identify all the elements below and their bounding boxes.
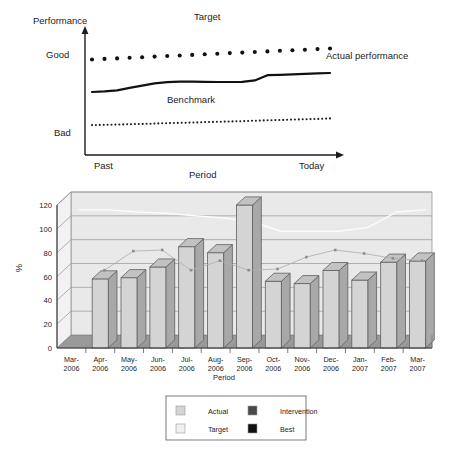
top-chart-benchmark-dot — [153, 123, 155, 125]
top-chart-target-dot — [190, 53, 194, 57]
xaxis-tick-label: 2007 — [381, 364, 397, 373]
xaxis-tick-label: 2006 — [121, 364, 137, 373]
top-chart-benchmark-dot — [165, 122, 167, 124]
bar — [265, 273, 290, 348]
top-chart-benchmark-dot — [208, 121, 210, 123]
bar — [381, 254, 406, 348]
top-chart-benchmark-dot — [309, 118, 311, 120]
xaxis-tick-label: Apr- — [94, 355, 108, 364]
top-chart-benchmark-dot — [134, 123, 136, 125]
top-chart-benchmark-dot — [286, 119, 288, 121]
top-chart-benchmark-dot — [99, 124, 101, 126]
bar-front-face — [410, 261, 426, 348]
top-chart-benchmark-dot — [235, 120, 237, 122]
top-chart-benchmark-dot — [196, 121, 198, 123]
top-chart-target-dot — [278, 49, 282, 53]
top-chart-ytick-bad: Bad — [54, 127, 71, 138]
top-chart-target-dot — [153, 55, 157, 59]
bar-side-face — [310, 276, 319, 348]
figure-container: Performance Good Bad Past Today Period T… — [0, 0, 449, 457]
bar-side-face — [426, 253, 435, 348]
xaxis-tick-label: 2006 — [63, 364, 79, 373]
performance-vs-period-chart: Performance Good Bad Past Today Period T… — [0, 0, 449, 180]
xaxis-tick-label: Jun- — [151, 355, 166, 364]
top-chart-benchmark-dot — [267, 119, 269, 121]
xaxis-tick-label: Jul- — [181, 355, 193, 364]
top-chart-benchmark-dot — [255, 120, 257, 122]
top-chart-target-dot — [328, 46, 332, 50]
bar-chart-yaxis-title: % — [13, 263, 24, 272]
xaxis-tick-label: 2006 — [265, 364, 281, 373]
top-chart-benchmark-dot — [306, 118, 308, 120]
top-chart-xaxis-title: Period — [189, 169, 216, 180]
xaxis-tick-label: Sep- — [237, 355, 253, 364]
target-series-marker — [103, 269, 106, 272]
top-chart-target-dot — [115, 56, 119, 60]
xaxis-tick-label: 2006 — [179, 364, 195, 373]
top-chart-benchmark-dot — [259, 120, 261, 122]
top-chart-benchmark-dot — [228, 120, 230, 122]
bar-side-face — [253, 197, 262, 348]
top-chart-benchmark-dot — [181, 122, 183, 124]
top-chart-axes — [82, 26, 344, 158]
top-chart-benchmark-dot — [278, 119, 280, 121]
top-chart-benchmark-dot — [274, 119, 276, 121]
top-chart-benchmark-dot — [114, 124, 116, 126]
top-chart-actual-label: Actual performance — [326, 50, 408, 61]
top-chart-benchmark-dot — [142, 123, 144, 125]
bar-side-face — [281, 273, 290, 348]
top-chart-benchmark-dot — [263, 119, 265, 121]
top-chart-benchmark-dot — [95, 124, 97, 126]
top-chart-benchmark-label: Benchmark — [167, 94, 215, 105]
yaxis-tick-label: 100 — [39, 225, 52, 234]
top-chart-target-dot — [215, 52, 219, 56]
bar — [323, 263, 348, 349]
top-chart-benchmark-dot — [317, 118, 319, 120]
xaxis-tick-label: Nov- — [295, 355, 311, 364]
top-chart-benchmark-dot — [161, 122, 163, 124]
legend-swatch — [176, 406, 185, 415]
top-chart-benchmark-dot — [110, 124, 112, 126]
bar-side-face — [137, 270, 146, 348]
top-chart-ytick-good: Good — [46, 49, 69, 60]
top-chart-benchmark-dot — [224, 121, 226, 123]
xaxis-tick-label: Feb- — [381, 355, 396, 364]
top-chart-benchmark-dot — [247, 120, 249, 122]
top-chart-xtick-past: Past — [94, 160, 113, 171]
top-chart-target-dot — [253, 50, 257, 54]
yaxis-tick-label: 0 — [48, 344, 52, 353]
top-chart-benchmark-dot — [329, 117, 331, 119]
bar — [121, 270, 146, 348]
bar — [236, 197, 261, 348]
legend-label: Target — [208, 425, 228, 434]
top-chart-target-dot — [265, 49, 269, 53]
top-chart-target-dot — [228, 51, 232, 55]
top-chart-benchmark-dot — [138, 123, 140, 125]
bar-chart-legend: ActualInterventionTargetBest — [166, 396, 318, 440]
bar — [150, 259, 175, 348]
top-chart-benchmark-dot — [294, 118, 296, 120]
legend-label: Actual — [208, 407, 228, 416]
legend-swatch — [248, 406, 257, 415]
top-chart-target-dot — [290, 48, 294, 52]
top-chart-benchmark-dot — [212, 121, 214, 123]
top-chart-benchmark-dot — [216, 121, 218, 123]
top-chart-target-label: Target — [194, 11, 221, 22]
top-chart-benchmark-dot — [192, 121, 194, 123]
top-chart-benchmark-dot — [204, 121, 206, 123]
top-chart-benchmark-dot — [122, 123, 124, 125]
top-chart-benchmark-dot — [251, 120, 253, 122]
top-chart-benchmark-dot — [302, 118, 304, 120]
yaxis-tick-label: 40 — [44, 296, 52, 305]
xaxis-tick-label: 2006 — [294, 364, 310, 373]
target-series-marker — [363, 252, 366, 255]
top-chart-benchmark-dot — [146, 123, 148, 125]
top-chart-target-dot — [140, 55, 144, 59]
target-series-marker — [161, 249, 164, 252]
top-chart-benchmark-dot — [173, 122, 175, 124]
xaxis-tick-label: 2006 — [150, 364, 166, 373]
bar — [179, 239, 204, 348]
top-chart-benchmark-dot — [325, 118, 327, 120]
bar-front-face — [236, 205, 252, 348]
bar-side-face — [108, 271, 117, 348]
